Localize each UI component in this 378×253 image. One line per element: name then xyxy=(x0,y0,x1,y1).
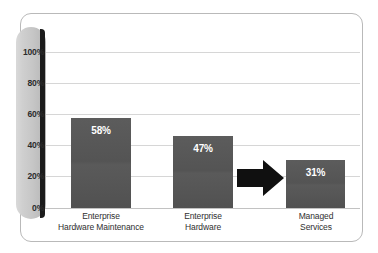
y-tick-label-20: 20% xyxy=(10,171,44,181)
category-label-line1-1: Enterprise xyxy=(40,211,162,222)
y-tick-label-40: 40% xyxy=(10,140,44,150)
y-axis-shadow xyxy=(40,29,45,218)
bar-value-label-3: 31% xyxy=(286,167,345,178)
bar-enterprise-hardware-maintenance[interactable]: 58% xyxy=(71,118,131,208)
y-tick-label-100: 100% xyxy=(10,47,44,57)
category-label-line2-1: Hardware Maintenance xyxy=(40,222,162,233)
category-label-enterprise-hardware-maintenance: Enterprise Hardware Maintenance xyxy=(40,211,162,233)
y-tick-label-80: 80% xyxy=(10,78,44,88)
category-label-line2-3: Services xyxy=(268,222,364,233)
category-label-line1-3: Managed xyxy=(268,211,364,222)
y-tick-label-60: 60% xyxy=(10,109,44,119)
bar-managed-services[interactable]: 31% xyxy=(286,160,345,208)
chart-container: 100% 80% 60% 40% 20% 0% 58% 47% 31% Ente… xyxy=(0,0,378,253)
category-label-line1-2: Enterprise xyxy=(155,211,251,222)
gridline-0 xyxy=(44,208,360,209)
bar-value-label-2: 47% xyxy=(173,143,233,154)
category-label-line2-2: Hardware xyxy=(155,222,251,233)
transition-arrow-icon xyxy=(237,159,285,197)
gridline-60 xyxy=(44,114,360,115)
gridline-80 xyxy=(44,83,360,84)
category-label-managed-services: Managed Services xyxy=(268,211,364,233)
category-label-enterprise-hardware: Enterprise Hardware xyxy=(155,211,251,233)
bar-value-label-1: 58% xyxy=(71,125,131,136)
y-tick-label-0: 0% xyxy=(10,203,44,213)
gridline-100 xyxy=(44,52,360,53)
bar-enterprise-hardware[interactable]: 47% xyxy=(173,136,233,208)
